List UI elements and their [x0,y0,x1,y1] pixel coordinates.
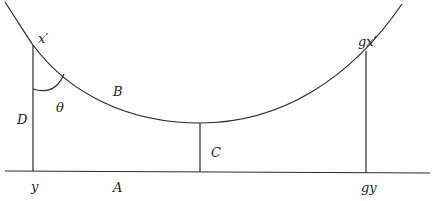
label-C: C [211,145,221,160]
label-A: A [112,180,122,195]
label-x-prime: x′ [38,31,48,46]
curve [5,2,402,123]
label-y: y [30,179,39,194]
label-D: D [16,112,28,127]
label-gy: gy [361,180,377,195]
angle-arc-theta [33,74,64,91]
label-B: B [112,84,123,99]
label-theta: θ [56,100,64,115]
diagram-canvas: x′ gx′ B θ D C y A gy [0,0,436,201]
label-gx-prime: gx′ [358,34,377,49]
